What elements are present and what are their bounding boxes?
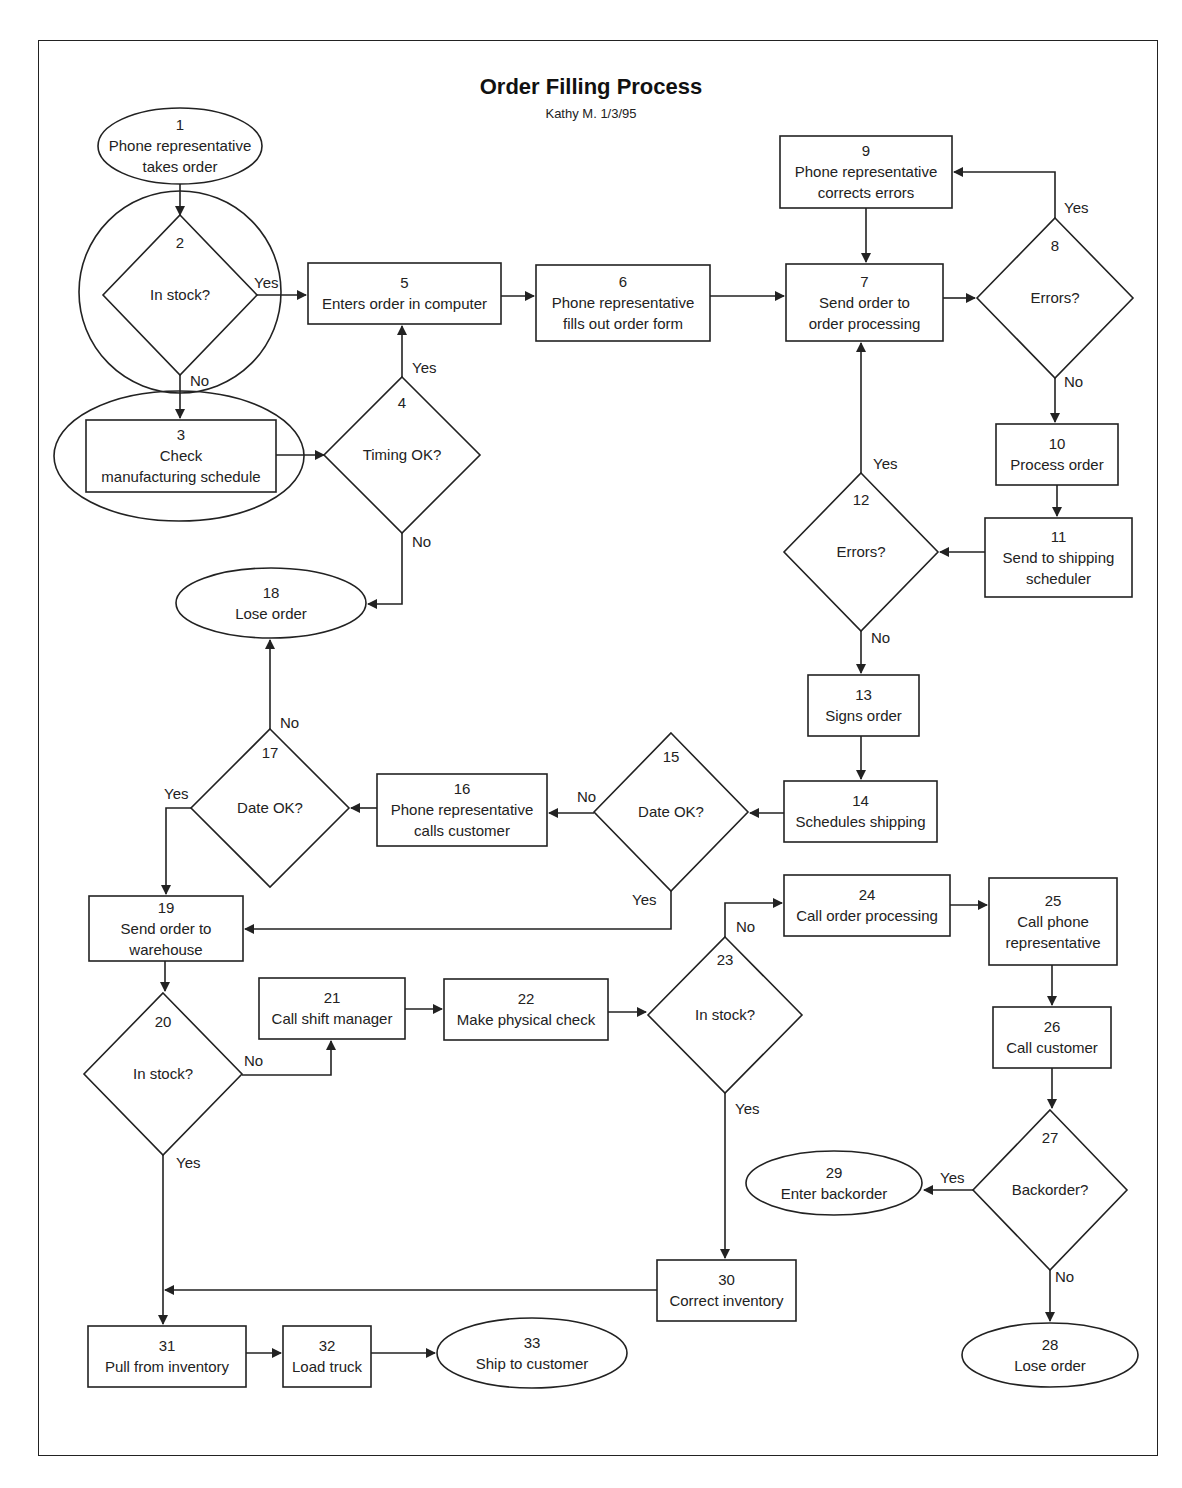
flow-node-32-rect: 32Load truck: [283, 1326, 371, 1387]
node-number: 30: [718, 1271, 735, 1288]
node-number: 7: [860, 273, 868, 290]
flow-node-28-ellipse: 28Lose order: [962, 1323, 1138, 1387]
flow-node-13-rect: 13Signs order: [808, 675, 919, 736]
node-label: Send to shipping: [1003, 549, 1115, 566]
branch-label-no: No: [280, 714, 299, 731]
flow-arrow-15-to-19: [245, 891, 671, 929]
flowchart-canvas: 1Phone representativetakes order2In stoc…: [0, 0, 1182, 1488]
node-label: Call order processing: [796, 907, 938, 924]
flow-node-15-diamond: 15Date OK?: [594, 733, 748, 891]
node-label: Date OK?: [237, 799, 303, 816]
node-number: 23: [717, 951, 734, 968]
flow-node-30-rect: 30Correct inventory: [657, 1260, 796, 1321]
node-label: order processing: [809, 315, 921, 332]
node-label: In stock?: [133, 1065, 193, 1082]
node-number: 25: [1045, 892, 1062, 909]
node-number: 29: [826, 1164, 843, 1181]
node-number: 20: [155, 1013, 172, 1030]
node-label: Send order to: [121, 920, 212, 937]
branch-label-no: No: [412, 533, 431, 550]
terminal-ellipse-shape: [176, 568, 366, 638]
flow-node-18-ellipse: 18Lose order: [176, 568, 366, 638]
node-label: scheduler: [1026, 570, 1091, 587]
node-label: Phone representative: [552, 294, 695, 311]
flow-node-5-rect: 5Enters order in computer: [308, 263, 501, 324]
process-box-shape: [808, 675, 919, 736]
edge-labels-layer: YesNoYesNoYesNoYesNoNoYesNoYesNoYesNoYes…: [164, 199, 1088, 1285]
flow-arrow-17-to-19: [166, 808, 191, 894]
process-box-shape: [784, 875, 950, 936]
branch-label-yes: Yes: [164, 785, 188, 802]
node-label: Lose order: [1014, 1357, 1086, 1374]
node-label: Send order to: [819, 294, 910, 311]
branch-label-no: No: [1064, 373, 1083, 390]
node-label: Phone representative: [391, 801, 534, 818]
flow-node-33-ellipse: 33Ship to customer: [437, 1318, 627, 1388]
flow-node-19-rect: 19Send order towarehouse: [89, 896, 243, 961]
node-label: takes order: [142, 158, 217, 175]
node-label: representative: [1005, 934, 1100, 951]
flow-node-23-diamond: 23In stock?: [648, 937, 802, 1093]
branch-label-no: No: [244, 1052, 263, 1069]
flow-node-10-rect: 10Process order: [996, 424, 1118, 485]
node-number: 4: [398, 394, 406, 411]
flow-node-9-rect: 9Phone representativecorrects errors: [780, 136, 952, 208]
flow-node-31-rect: 31Pull from inventory: [88, 1326, 246, 1387]
branch-label-yes: Yes: [1064, 199, 1088, 216]
node-label: Date OK?: [638, 803, 704, 820]
branch-label-no: No: [871, 629, 890, 646]
node-number: 26: [1044, 1018, 1061, 1035]
branch-label-yes: Yes: [412, 359, 436, 376]
node-label: calls customer: [414, 822, 510, 839]
flow-node-4-diamond: 4Timing OK?: [324, 377, 480, 533]
node-number: 19: [158, 899, 175, 916]
flow-node-21-rect: 21Call shift manager: [259, 978, 405, 1039]
branch-label-yes: Yes: [735, 1100, 759, 1117]
flow-node-2-diamond: 2In stock?: [103, 215, 257, 375]
node-number: 17: [262, 744, 279, 761]
node-number: 12: [853, 491, 870, 508]
branch-label-yes: Yes: [873, 455, 897, 472]
node-label: Process order: [1010, 456, 1103, 473]
node-number: 22: [518, 990, 535, 1007]
node-label: manufacturing schedule: [101, 468, 260, 485]
node-label: Enter backorder: [781, 1185, 888, 1202]
process-box-shape: [444, 979, 608, 1040]
flow-node-25-rect: 25Call phonerepresentative: [989, 878, 1117, 965]
terminal-ellipse-shape: [962, 1323, 1138, 1387]
flow-node-24-rect: 24Call order processing: [784, 875, 950, 936]
node-number: 11: [1051, 528, 1067, 545]
process-box-shape: [283, 1326, 371, 1387]
node-label: Ship to customer: [476, 1355, 589, 1372]
flow-node-7-rect: 7Send order toorder processing: [786, 264, 943, 341]
node-number: 13: [855, 686, 872, 703]
node-number: 3: [177, 426, 185, 443]
node-number: 6: [619, 273, 627, 290]
node-label: Check: [160, 447, 203, 464]
flow-node-3-rect: 3Checkmanufacturing schedule: [86, 420, 276, 492]
branch-label-yes: Yes: [176, 1154, 200, 1171]
node-label: Errors?: [1030, 289, 1079, 306]
flow-node-16-rect: 16Phone representativecalls customer: [377, 774, 547, 846]
flow-node-27-diamond: 27Backorder?: [973, 1110, 1127, 1270]
node-number: 10: [1049, 435, 1066, 452]
node-label: Call customer: [1006, 1039, 1098, 1056]
process-box-shape: [308, 263, 501, 324]
node-label: warehouse: [128, 941, 202, 958]
node-label: Phone representative: [109, 137, 252, 154]
flow-node-6-rect: 6Phone representativefills out order for…: [536, 265, 710, 341]
node-number: 24: [859, 886, 876, 903]
node-label: Lose order: [235, 605, 307, 622]
node-label: Phone representative: [795, 163, 938, 180]
edges-layer: [163, 172, 1057, 1353]
process-box-shape: [996, 424, 1118, 485]
flow-node-11-rect: 11Send to shippingscheduler: [985, 518, 1132, 597]
node-label: Pull from inventory: [105, 1358, 230, 1375]
node-label: fills out order form: [563, 315, 683, 332]
branch-label-no: No: [577, 788, 596, 805]
node-number: 14: [852, 792, 869, 809]
node-label: Schedules shipping: [795, 813, 925, 830]
node-label: Timing OK?: [363, 446, 442, 463]
node-number: 16: [454, 780, 471, 797]
node-number: 33: [524, 1334, 541, 1351]
